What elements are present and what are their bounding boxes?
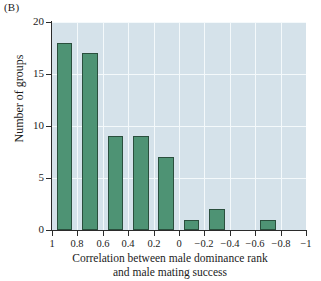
x-axis-tick-label: −1 bbox=[286, 238, 321, 249]
x-axis-tick bbox=[281, 231, 282, 236]
bar bbox=[209, 209, 225, 230]
x-axis-tick bbox=[230, 231, 231, 236]
bar bbox=[57, 43, 73, 230]
bar bbox=[184, 220, 200, 230]
x-axis-title-line-1: Correlation between male dominance rank bbox=[30, 252, 310, 266]
y-axis-title: Number of groups bbox=[13, 24, 26, 174]
x-axis-tick bbox=[52, 231, 53, 236]
x-axis-title: Correlation between male dominance rank … bbox=[30, 252, 310, 279]
plot-area bbox=[52, 22, 306, 230]
bar bbox=[158, 157, 174, 230]
bar bbox=[260, 220, 276, 230]
y-axis-tick-label: 0 bbox=[14, 224, 44, 235]
y-axis-tick bbox=[46, 22, 52, 23]
bar-series bbox=[52, 22, 306, 230]
x-axis-tick bbox=[306, 231, 307, 236]
bar bbox=[82, 53, 98, 230]
y-axis-tick bbox=[46, 178, 52, 179]
x-axis-tick bbox=[128, 231, 129, 236]
x-axis-tick bbox=[204, 231, 205, 236]
x-axis-tick bbox=[255, 231, 256, 236]
x-axis-tick bbox=[179, 231, 180, 236]
figure-panel-b: (B) 05101520 10.80.60.40.20−0.2−0.4−0.6−… bbox=[0, 0, 321, 281]
y-axis-tick bbox=[46, 126, 52, 127]
x-axis-tick bbox=[103, 231, 104, 236]
bar bbox=[108, 136, 124, 230]
x-axis-tick bbox=[154, 231, 155, 236]
y-axis-tick bbox=[46, 74, 52, 75]
y-axis-tick-label: 5 bbox=[14, 172, 44, 183]
bar bbox=[133, 136, 149, 230]
x-axis-tick bbox=[77, 231, 78, 236]
x-axis-title-line-2: and male mating success bbox=[30, 266, 310, 280]
